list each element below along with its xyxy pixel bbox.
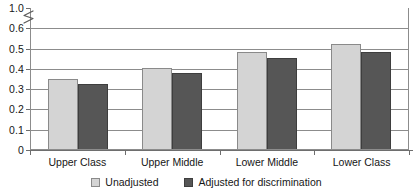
bar [172, 73, 202, 149]
bar [267, 58, 297, 149]
bar [361, 52, 391, 149]
bar [237, 52, 267, 149]
x-axis-tick-mark [125, 150, 126, 155]
y-axis-tick-label: 1.0 [0, 3, 24, 13]
bar-group [331, 8, 391, 149]
plot-area [30, 8, 409, 150]
y-axis-tick-label: 0.1 [0, 125, 24, 135]
x-axis-tick-mark [30, 150, 31, 155]
bar [48, 79, 78, 149]
y-axis-tick-label: 0 [0, 145, 24, 155]
chart-legend: UnadjustedAdjusted for discrimination [0, 174, 413, 190]
x-axis-tick-marks [30, 150, 409, 155]
light-gray-swatch [91, 178, 100, 187]
y-axis-tick-label: 0.5 [0, 44, 24, 54]
dark-gray-swatch [184, 178, 193, 187]
x-axis-tick-label: Lower Class [314, 156, 409, 170]
bar-chart: 00.10.20.30.40.50.61.0 Upper ClassUpper … [0, 0, 413, 193]
legend-entry[interactable]: Adjusted for discrimination [184, 177, 321, 188]
legend-label: Unadjusted [105, 177, 158, 188]
bar-group [237, 8, 297, 149]
y-axis-tick-label: 0.4 [0, 64, 24, 74]
bar [78, 84, 108, 149]
x-axis-tick-mark [409, 150, 410, 155]
y-axis-tick-label: 0.6 [0, 23, 24, 33]
legend-entry[interactable]: Unadjusted [91, 177, 158, 188]
x-axis-tick-label: Upper Class [30, 156, 125, 170]
y-axis-tick-label: 0.2 [0, 104, 24, 114]
y-axis-labels: 00.10.20.30.40.50.61.0 [0, 0, 24, 150]
x-axis-tick-mark [314, 150, 315, 155]
x-axis-tick-label: Upper Middle [125, 156, 220, 170]
bar-group [48, 8, 108, 149]
bars-layer [31, 8, 408, 149]
x-axis-tick-label: Lower Middle [220, 156, 315, 170]
bar [331, 44, 361, 149]
bar [142, 68, 172, 149]
legend-label: Adjusted for discrimination [198, 177, 321, 188]
bar-group [142, 8, 202, 149]
x-axis-labels: Upper ClassUpper MiddleLower MiddleLower… [30, 156, 409, 170]
x-axis-tick-mark [220, 150, 221, 155]
y-axis-tick-label: 0.3 [0, 84, 24, 94]
